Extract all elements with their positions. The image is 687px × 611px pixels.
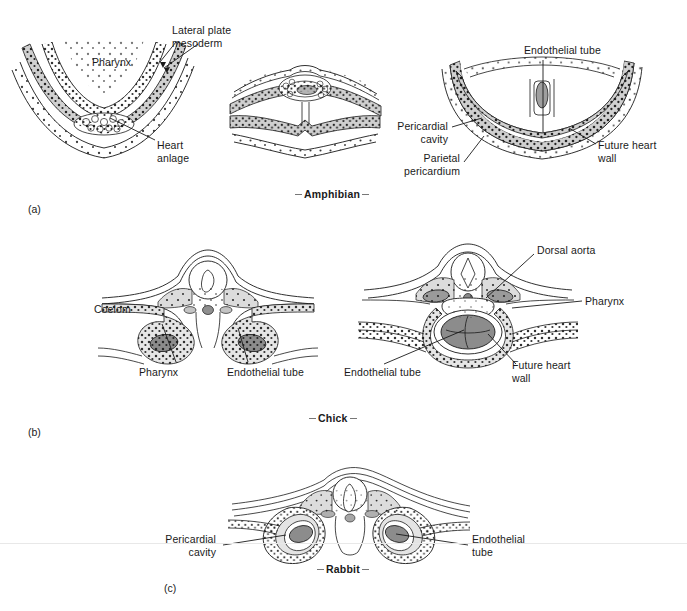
leader-lines-rabbit: [140, 500, 560, 560]
species-label-rabbit: Rabbit: [326, 563, 360, 575]
panel-rabbit: Pericardial cavity Endothelial tube Rabb…: [0, 440, 687, 611]
panel-letter-c: (c): [164, 582, 176, 594]
leader-lines-chick-1: [100, 300, 360, 380]
species-label-chick: Chick: [318, 412, 348, 424]
leader-lines-amphibian-3: [360, 20, 687, 190]
panel-letter-a: (a): [28, 203, 41, 215]
page-scan-line: [0, 543, 687, 544]
panel-letter-b: (b): [28, 426, 41, 438]
species-label-amphibian: Amphibian: [304, 188, 360, 200]
leader-lines-chick-2: [340, 238, 687, 383]
panel-chick: Coelom Pharynx Endothelial tube: [0, 220, 687, 440]
panel-amphibian: Lateral plate mesoderm Pharynx Heart anl…: [0, 0, 687, 220]
leader-lines-amphibian-1: [0, 0, 250, 180]
figure-heart-development: Lateral plate mesoderm Pharynx Heart anl…: [0, 0, 687, 611]
